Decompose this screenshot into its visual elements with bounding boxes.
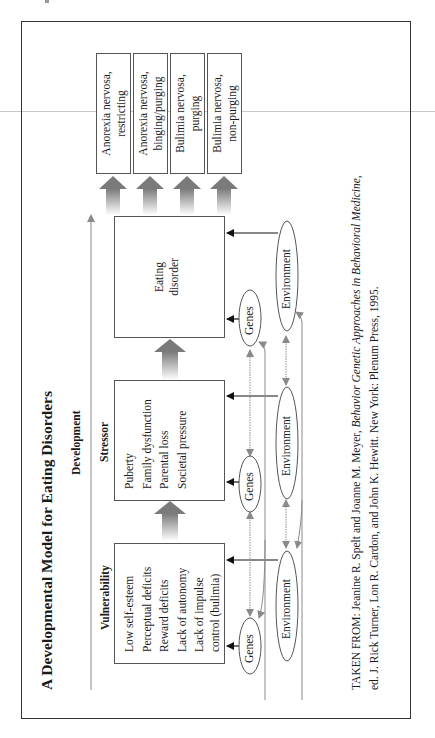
- feedback-env-to-env-disorder: [296, 312, 302, 700]
- citation-line-2: ed. J. Rick Turner, Lon R. Cardon, and J…: [365, 175, 383, 690]
- environment-label-disorder: Environment: [280, 249, 292, 309]
- vulnerability-item: Lack of autonomy: [174, 567, 192, 652]
- stressor-item: Parental loss: [156, 399, 174, 489]
- stressor-heading: Stressor: [98, 422, 110, 462]
- genes-label-disorder: Genes: [243, 306, 255, 335]
- vulnerability-box: Low self-esteem Perceptual deficits Rewa…: [114, 543, 225, 664]
- gradient-arrow-stressor-to-disorder: [154, 339, 186, 380]
- outcome-1-line-1: Anorexia nervosa,: [99, 55, 114, 172]
- eating-disorder-line-2: disorder: [167, 227, 182, 327]
- outcome-box-4: Bulimia nervosa, non-purging: [207, 53, 242, 174]
- vulnerability-item: Low self-esteem: [121, 567, 139, 652]
- vulnerability-item: Reward deficits: [156, 567, 174, 652]
- outcome-2-line-2: binging/purging: [151, 55, 166, 172]
- stressor-box: Puberty Family dysfunction Parental loss…: [114, 380, 225, 501]
- figure-title: A Developmental Model for Eating Disorde…: [38, 391, 56, 690]
- outcome-4-line-1: Bulimia nervosa,: [210, 55, 225, 172]
- outcome-box-3: Bulimia nervosa, purging: [170, 53, 205, 174]
- stressor-item: Societal pressure: [174, 399, 192, 489]
- development-arrowhead: [87, 214, 95, 222]
- environment-label-stressor: Environment: [280, 416, 292, 476]
- feedback-stressor-env-to-vulnerability-env: [297, 500, 302, 548]
- gradient-arrow-vulnerability-to-stressor: [154, 501, 186, 541]
- outcome-1-line-2: restricting: [114, 55, 129, 172]
- feedback-genes-to-genes-vulnerability: [259, 440, 265, 616]
- outcome-box-1: Anorexia nervosa, restricting: [96, 53, 131, 174]
- feedback-stressor-genes-to-vulnerability-genes: [259, 540, 265, 618]
- outcome-2-line-1: Anorexia nervosa,: [136, 55, 151, 172]
- citation: TAKEN FROM: Jeanine R. Spelt and Joanne …: [347, 175, 383, 690]
- genes-label-vulnerability: Genes: [243, 634, 255, 663]
- vulnerability-item: Lack of impulse: [191, 567, 209, 652]
- gradient-arrow-outcome-4: [210, 176, 238, 215]
- development-label: Development: [70, 410, 82, 475]
- gradient-arrow-outcome-1: [99, 176, 127, 215]
- genes-label-stressor: Genes: [243, 472, 255, 501]
- vulnerability-heading: Vulnerability: [99, 565, 111, 630]
- gradient-arrow-outcome-2: [136, 176, 164, 215]
- eating-disorder-line-1: Eating: [152, 227, 167, 327]
- outcome-4-line-2: non-purging: [225, 55, 240, 172]
- gradient-arrow-outcome-3: [173, 176, 201, 215]
- outcome-3-line-2: purging: [188, 55, 203, 172]
- vulnerability-item: control (bulimia): [209, 567, 221, 652]
- outcome-box-2: Anorexia nervosa, binging/purging: [133, 53, 168, 174]
- eating-disorder-box: Eating disorder: [114, 216, 225, 338]
- stressor-item: Family dysfunction: [139, 399, 157, 489]
- environment-label-vulnerability: Environment: [280, 579, 292, 639]
- citation-book-title: Behavior Genetic Approaches in Behaviora…: [350, 178, 362, 427]
- outcome-3-line-1: Bulimia nervosa,: [173, 55, 188, 172]
- vulnerability-item: Perceptual deficits: [139, 567, 157, 652]
- stressor-item: Puberty: [121, 399, 139, 489]
- citation-line-1: TAKEN FROM: Jeanine R. Spelt and Joanne …: [347, 175, 365, 690]
